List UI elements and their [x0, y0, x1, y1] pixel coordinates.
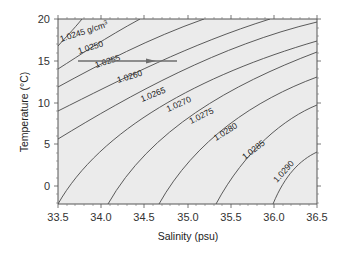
y-tick-label: 0 — [44, 180, 50, 192]
density-contour-chart: 1.0245 g/cm3 1.0250 1.0255 1.0260 1.0265… — [0, 0, 343, 256]
x-tick-label: 33.5 — [47, 211, 68, 223]
x-tick-label: 36.0 — [263, 211, 284, 223]
y-tick-label: 5 — [44, 138, 50, 150]
x-tick-label: 35.0 — [177, 211, 198, 223]
y-tick-label: 15 — [38, 55, 50, 67]
x-tick-label: 36.5 — [306, 211, 327, 223]
y-axis-title: Temperature (°C) — [18, 72, 30, 153]
y-tick-label: 10 — [38, 97, 50, 109]
y-tick-labels: 0 5 10 15 20 — [38, 13, 50, 192]
y-tick-label: 20 — [38, 13, 50, 25]
x-tick-label: 35.5 — [220, 211, 241, 223]
x-tick-label: 34.5 — [133, 211, 154, 223]
x-tick-label: 34.0 — [90, 211, 111, 223]
x-tick-labels: 33.5 34.0 34.5 35.0 35.5 36.0 36.5 — [47, 211, 327, 223]
x-axis-title: Salinity (psu) — [158, 230, 219, 242]
